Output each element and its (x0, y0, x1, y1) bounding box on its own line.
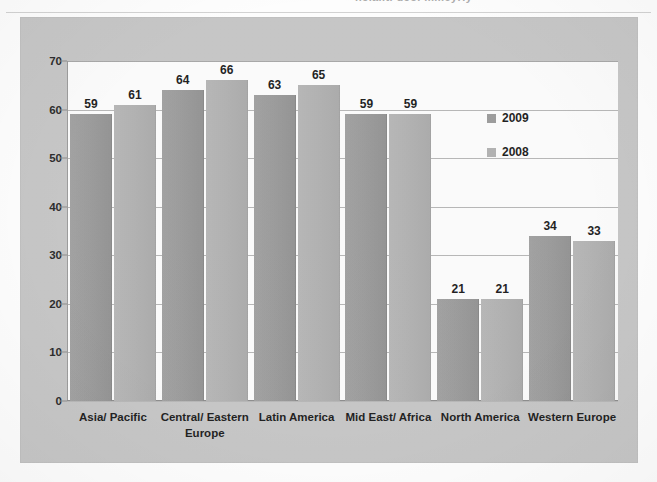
chart-frame: 706050403020100 596164666365595921213433… (20, 17, 638, 463)
bar-value-label: 21 (452, 282, 465, 296)
bar-2008-central-eastern-europe[interactable]: 66 (206, 80, 248, 401)
legend-swatch-icon (487, 148, 496, 157)
legend-item-2009[interactable]: 2009 (487, 101, 597, 135)
bar-group: 6365 (254, 61, 340, 401)
y-axis-tick-label: 30 (22, 249, 62, 261)
chart-page: hcialitl dcoi mmeyriy 706050403020100 59… (0, 0, 657, 482)
bar-2008-latin-america[interactable]: 65 (298, 85, 340, 401)
bar-value-label: 63 (268, 78, 281, 92)
y-axis-tick-mark (60, 206, 67, 207)
chart-legend: 20092008 (487, 101, 597, 169)
plot-area: 596164666365595921213433 20092008 (67, 61, 618, 401)
bar-value-label: 66 (220, 63, 233, 77)
bar-value-label: 34 (543, 219, 556, 233)
bar-2009-asia-pacific[interactable]: 59 (70, 114, 112, 401)
bar-value-label: 61 (128, 88, 141, 102)
bar-value-label: 59 (84, 97, 97, 111)
bar-2008-mid-east-africa[interactable]: 59 (389, 114, 431, 401)
y-axis-line (67, 61, 68, 401)
legend-item-2008[interactable]: 2008 (487, 135, 597, 169)
y-axis-tick-label: 60 (22, 104, 62, 116)
y-axis-tick-mark (60, 303, 67, 304)
y-axis-tick-mark (60, 401, 67, 402)
y-axis-tick-label: 50 (22, 152, 62, 164)
bar-2009-western-europe[interactable]: 34 (529, 236, 571, 401)
bar-2009-north-america[interactable]: 21 (437, 299, 479, 401)
y-axis-tick-label: 0 (22, 395, 62, 407)
bar-2008-north-america[interactable]: 21 (481, 299, 523, 401)
y-axis-tick-label: 70 (22, 55, 62, 67)
bar-value-label: 59 (360, 97, 373, 111)
bar-2008-asia-pacific[interactable]: 61 (114, 105, 156, 401)
y-axis-tick-label: 20 (22, 298, 62, 310)
legend-label: 2008 (502, 145, 529, 159)
cropped-title-remnant: hcialitl dcoi mmeyriy (355, 0, 615, 9)
bar-value-label: 59 (404, 97, 417, 111)
x-axis-category-label: Western Europe (512, 409, 632, 425)
bar-value-label: 65 (312, 68, 325, 82)
y-axis-tick-mark (60, 109, 67, 110)
y-axis-tick-mark (60, 352, 67, 353)
y-axis-tick-mark (60, 158, 67, 159)
bar-2009-latin-america[interactable]: 63 (254, 95, 296, 401)
legend-swatch-icon (487, 114, 496, 123)
bar-value-label: 33 (587, 224, 600, 238)
y-axis-tick-label: 40 (22, 201, 62, 213)
y-axis-tick-mark (60, 255, 67, 256)
legend-label: 2009 (502, 111, 529, 125)
top-divider-rule (6, 12, 651, 13)
bar-group: 5961 (70, 61, 156, 401)
bar-2008-western-europe[interactable]: 33 (573, 241, 615, 401)
y-axis-tick-label: 10 (22, 346, 62, 358)
bar-group: 6466 (162, 61, 248, 401)
bar-value-label: 64 (176, 73, 189, 87)
bar-value-label: 21 (496, 282, 509, 296)
y-axis-tick-mark (60, 61, 67, 62)
bar-group: 5959 (345, 61, 431, 401)
bar-2009-central-eastern-europe[interactable]: 64 (162, 90, 204, 401)
bar-2009-mid-east-africa[interactable]: 59 (345, 114, 387, 401)
gridline-0 (67, 401, 618, 402)
